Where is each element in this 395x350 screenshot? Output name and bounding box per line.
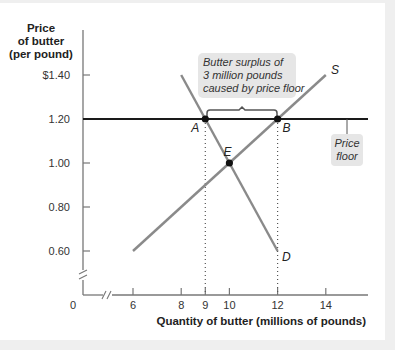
y-tick-label: 0.80 [49,201,70,213]
x-tick-label: 12 [271,299,283,311]
x-axis-title: Quantity of butter (millions of pounds) [156,315,366,327]
y-tick-label: 0.60 [49,245,70,257]
price-floor-callout-line2: floor [336,150,359,162]
price-floor-callout-line1: Price [334,137,359,149]
y-axis-title-line1: Price [27,22,55,34]
x-tick-label: 14 [320,299,332,311]
point-label-b: B [283,121,291,135]
point-a [202,115,209,122]
point-b [274,115,281,122]
y-axis-break-icon [79,270,87,279]
curves [83,75,368,251]
y-tick-label: 1.20 [49,113,70,125]
y-tick-label: 1.00 [49,157,70,169]
surplus-bracket [207,107,277,117]
y-tick-label: $1.40 [42,69,70,81]
x-tick-label: 6 [130,299,136,311]
y-axis-title-line3: (per pound) [9,48,73,60]
x-axis-break-icon [102,291,111,299]
origin-label: 0 [70,299,76,311]
y-axis-title-line2: of butter [18,35,65,47]
supply-curve-label: S [331,63,339,77]
point-label-e: E [223,145,232,159]
x-tick-label: 9 [202,299,208,311]
surplus-callout-line2: 3 million pounds [203,69,283,81]
x-tick-label: 8 [178,299,184,311]
point-label-a: A [190,121,199,135]
point-e [226,159,233,166]
demand-curve-label: D [282,250,291,264]
surplus-callout-line3: caused by price floor [203,82,306,94]
x-ticks: 689101214 [130,288,332,311]
price-floor-chart: Price of butter (per pound) $1.401.201.0… [0,0,395,350]
dotted-guides [205,119,277,295]
surplus-callout-line1: Butter surplus of [203,56,284,68]
x-tick-label: 10 [223,299,235,311]
